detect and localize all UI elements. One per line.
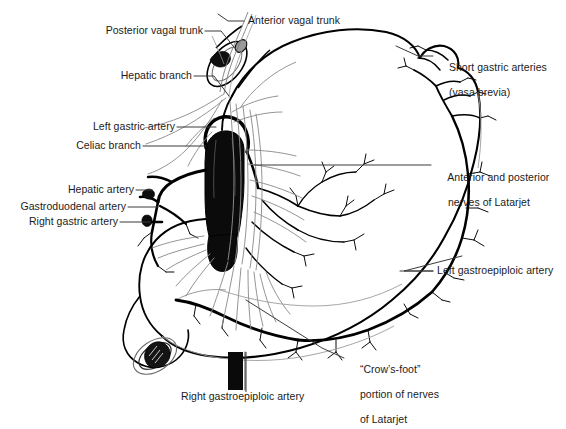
- label-crows-foot-line2: portion of nerves: [360, 388, 439, 400]
- label-crows-foot-line1: “Crow’s-foot”: [360, 363, 421, 375]
- label-short-gastric-arteries-line2: (vasa brevia): [449, 86, 510, 98]
- label-short-gastric-arteries: Short gastric arteries (vasa brevia): [437, 48, 547, 111]
- label-nerves-of-latarjet: Anterior and posterior nerves of Latarje…: [436, 158, 549, 221]
- lesser-curvature-mass: [205, 131, 244, 272]
- arteries: [140, 50, 480, 341]
- label-crows-foot: “Crow’s-foot” portion of nerves of Latar…: [348, 350, 439, 429]
- label-anterior-vagal-trunk: Anterior vagal trunk: [248, 14, 340, 27]
- leader-anterior-vagal-trunk: [218, 14, 244, 21]
- stomach-outline: [123, 29, 480, 382]
- label-short-gastric-arteries-line1: Short gastric arteries: [449, 61, 547, 73]
- label-posterior-vagal-trunk: Posterior vagal trunk: [60, 24, 203, 37]
- label-hepatic-branch: Hepatic branch: [60, 69, 192, 82]
- label-crows-foot-line3: of Latarjet: [360, 413, 407, 425]
- label-left-gastroepiploic-artery: Left gastroepiploic artery: [437, 264, 553, 277]
- label-right-gastroepiploic-artery: Right gastroepiploic artery: [181, 390, 304, 403]
- label-gastroduodenal-artery: Gastroduodenal artery: [8, 200, 126, 213]
- label-celiac-branch: Celiac branch: [50, 139, 141, 152]
- label-left-gastric-artery: Left gastric artery: [50, 120, 175, 133]
- label-right-gastric-artery: Right gastric artery: [20, 215, 118, 228]
- label-nerves-of-latarjet-line1: Anterior and posterior: [447, 171, 549, 183]
- label-hepatic-artery: Hepatic artery: [50, 183, 134, 196]
- label-nerves-of-latarjet-line2: nerves of Latarjet: [448, 196, 530, 208]
